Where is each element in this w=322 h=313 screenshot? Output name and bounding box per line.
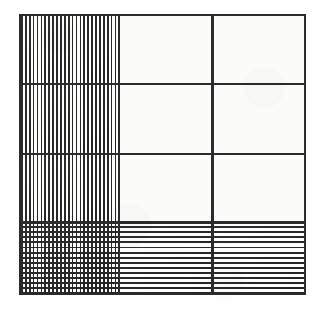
cell-row4-col2 — [118, 221, 212, 293]
cell-row3-col3 — [211, 153, 304, 221]
horizontal-divider-1 — [21, 83, 304, 85]
grid-row-3 — [21, 153, 304, 221]
grid-row-4 — [21, 221, 304, 293]
horizontal-divider-3 — [21, 221, 304, 224]
cell-row2-col2 — [118, 83, 212, 153]
diagram-canvas — [0, 0, 322, 313]
cell-row2-col3 — [211, 83, 304, 153]
grid-row-2 — [21, 83, 304, 153]
cell-row4-col1 — [21, 221, 118, 293]
cell-row2-col1 — [21, 83, 118, 153]
cell-row1-col1 — [21, 16, 118, 83]
cell-row4-col3 — [211, 221, 304, 293]
cell-row1-col3 — [211, 16, 304, 83]
cell-row3-col2 — [118, 153, 212, 221]
cell-row1-col2 — [118, 16, 212, 83]
grid-figure — [19, 14, 306, 295]
horizontal-divider-2 — [21, 153, 304, 155]
cell-row3-col1 — [21, 153, 118, 221]
grid-row-1 — [21, 16, 304, 83]
